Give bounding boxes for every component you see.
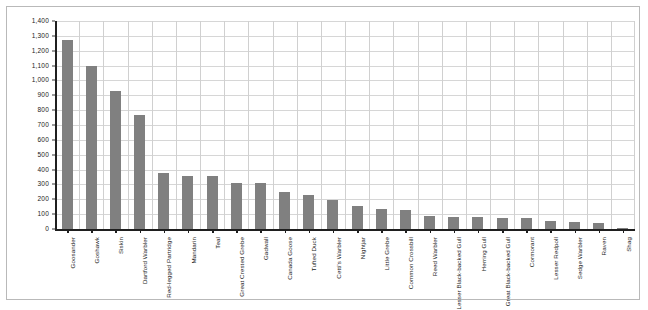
x-axis-tick-mark: [236, 229, 238, 233]
x-axis-tick-label: Raven: [601, 237, 607, 255]
x-axis-tick-label: Mandarin: [191, 237, 197, 264]
x-axis-tick-mark: [381, 229, 383, 233]
x-axis-tick-label: Reed Warbler: [432, 237, 438, 276]
x-axis-tick-label: Shag: [626, 237, 632, 252]
x-axis-tick-mark: [550, 229, 552, 233]
x-axis-tick-mark: [575, 229, 577, 233]
gridline-vertical: [442, 21, 443, 229]
gridline-vertical: [321, 21, 322, 229]
bar: [110, 91, 121, 229]
y-axis-line: [55, 21, 57, 230]
chart-frame: 01002003004005006007008009001,0001,1001,…: [6, 6, 640, 300]
x-axis-tick-mark: [405, 229, 407, 233]
x-axis-tick-label: Canada Goose: [287, 237, 293, 280]
x-axis-tick-mark: [67, 229, 69, 233]
x-axis-tick-label: Nightjar: [360, 237, 366, 259]
gridline-vertical: [200, 21, 201, 229]
bar: [376, 209, 387, 229]
gridline-vertical: [587, 21, 588, 229]
x-axis-tick-mark: [140, 229, 142, 233]
bar: [303, 195, 314, 229]
bar: [158, 173, 169, 229]
gridline-vertical: [634, 21, 635, 229]
x-axis-tick-label: Lesser Redpoll: [553, 237, 559, 280]
x-axis-tick-mark: [212, 229, 214, 233]
gridline-vertical: [345, 21, 346, 229]
x-axis-tick-mark: [309, 229, 311, 233]
x-axis-tick-label: Great Black-backed Gull: [505, 237, 511, 306]
bar: [521, 218, 532, 229]
gridline-vertical: [563, 21, 564, 229]
bar: [62, 40, 73, 229]
gridline-vertical: [466, 21, 467, 229]
x-axis-tick-mark: [623, 229, 625, 233]
x-axis-tick-mark: [164, 229, 166, 233]
bar: [472, 217, 483, 229]
x-axis-tick-mark: [115, 229, 117, 233]
y-axis-tick-label: 0: [45, 226, 49, 233]
gridline-vertical: [79, 21, 80, 229]
bar: [497, 218, 508, 229]
x-axis-tick-mark: [454, 229, 456, 233]
x-axis-tick-mark: [478, 229, 480, 233]
gridline-vertical: [538, 21, 539, 229]
x-axis-tick-mark: [260, 229, 262, 233]
x-axis-line: [55, 229, 635, 231]
bar: [569, 222, 580, 229]
plot-area: [55, 21, 635, 229]
y-axis-tick-label: 1,200: [32, 47, 49, 54]
x-axis-tick-label: Gadwall: [263, 237, 269, 260]
y-axis-tick-label: 700: [38, 122, 49, 129]
y-axis-tick-label: 500: [38, 151, 49, 158]
gridline-vertical: [369, 21, 370, 229]
x-axis-tick-label: Goosander: [70, 237, 76, 269]
bar: [400, 210, 411, 229]
x-axis-tick-label: Herring Gull: [481, 237, 487, 271]
y-axis-tick-label: 200: [38, 196, 49, 203]
bar: [255, 183, 266, 229]
x-axis-tick-mark: [91, 229, 93, 233]
x-axis-tick-label: Goshawk: [94, 237, 100, 264]
y-axis-tick-label: 300: [38, 181, 49, 188]
gridline-vertical: [176, 21, 177, 229]
y-axis-tick-label: 1,400: [32, 18, 49, 25]
gridline-vertical: [297, 21, 298, 229]
x-axis-tick-mark: [430, 229, 432, 233]
y-axis-tick-labels: 01002003004005006007008009001,0001,1001,…: [7, 21, 55, 229]
x-axis-tick-label: Common Crossbill: [408, 237, 414, 289]
x-axis-tick-mark: [502, 229, 504, 233]
bar: [545, 221, 556, 229]
x-axis-tick-label: Teal: [215, 237, 221, 249]
x-axis-tick-label: Little Grebe: [384, 237, 390, 270]
y-axis-tick-label: 1,000: [32, 77, 49, 84]
x-axis-tick-mark: [188, 229, 190, 233]
x-axis-tick-mark: [285, 229, 287, 233]
x-axis-tick-label: Lesser Black-backed Gull: [456, 237, 462, 310]
gridline-vertical: [273, 21, 274, 229]
y-axis-tick-label: 600: [38, 137, 49, 144]
chart-plot-wrapper: 01002003004005006007008009001,0001,1001,…: [7, 7, 641, 301]
x-axis-tick-label: Siskin: [118, 237, 124, 254]
gridline-vertical: [103, 21, 104, 229]
bar: [448, 217, 459, 229]
y-axis-tick-label: 1,100: [32, 62, 49, 69]
bar: [327, 200, 338, 229]
gridline-vertical: [490, 21, 491, 229]
x-axis-tick-mark: [357, 229, 359, 233]
gridline-vertical: [393, 21, 394, 229]
y-axis-tick-label: 800: [38, 107, 49, 114]
y-axis-tick-label: 900: [38, 92, 49, 99]
x-axis-tick-label: Dartford Warbler: [142, 237, 148, 284]
gridline-vertical: [514, 21, 515, 229]
bar: [134, 115, 145, 229]
bar: [231, 183, 242, 229]
x-axis-tick-label: Sedge Warbler: [577, 237, 583, 279]
y-axis-tick-label: 400: [38, 166, 49, 173]
gridline-vertical: [224, 21, 225, 229]
x-axis-tick-label: Red-legged Partridge: [166, 237, 172, 298]
x-axis-tick-label: Cetti's Warbler: [336, 237, 342, 279]
y-axis-tick-label: 1,300: [32, 33, 49, 40]
x-axis-tick-label: Cormorant: [529, 237, 535, 267]
x-axis-tick-mark: [526, 229, 528, 233]
bar: [424, 216, 435, 229]
